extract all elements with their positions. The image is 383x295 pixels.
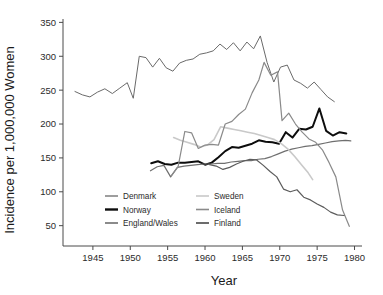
series-line-iceland [171,62,349,226]
x-tick-label: 1955 [157,252,178,263]
y-axis-title: Incidence per 1,000,000 Women [2,46,17,234]
series-line-denmark [75,36,334,102]
x-tick-label: 1975 [307,252,328,263]
y-tick-label: 350 [40,17,56,28]
legend-label-norway: Norway [123,206,152,215]
x-axis-title: Year [211,273,238,288]
chart-legend: DenmarkNorwayEngland/WalesSwedenIcelandF… [105,192,244,228]
legend-label-england-wales: England/Wales [123,219,178,228]
legend-label-sweden: Sweden [214,192,244,201]
y-tick-label: 50 [45,220,56,231]
series-group [75,36,351,226]
x-tick-label: 1970 [269,252,290,263]
series-line-england-wales [150,140,350,177]
legend-label-denmark: Denmark [123,192,157,201]
x-tick-label: 1950 [120,252,141,263]
x-tick-label: 1980 [344,252,365,263]
y-tick-label: 300 [40,51,56,62]
incidence-line-chart: 50100150200250300350 1945195019551960196… [0,0,383,295]
y-axis-ticks: 50100150200250300350 [40,17,63,231]
legend-label-finland: Finland [214,219,241,228]
x-tick-label: 1945 [82,252,103,263]
y-tick-label: 150 [40,152,56,163]
y-tick-label: 250 [40,85,56,96]
x-tick-label: 1965 [232,252,253,263]
chart-figure: 50100150200250300350 1945195019551960196… [0,0,383,295]
y-tick-label: 100 [40,186,56,197]
y-tick-label: 200 [40,118,56,129]
x-axis-ticks: 19451950195519601965197019751980 [82,246,365,263]
legend-label-iceland: Iceland [214,206,241,215]
x-tick-label: 1960 [194,252,215,263]
series-line-sweden [174,127,313,180]
